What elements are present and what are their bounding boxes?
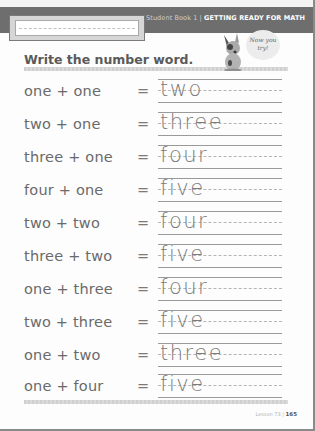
header-text: Student Book 1 | GETTING READY FOR MATH <box>146 14 305 22</box>
bubble-line-2: try! <box>257 44 268 51</box>
exercise-row: one + one = two <box>0 77 313 110</box>
equals-sign: = <box>137 182 149 198</box>
answer-text: five <box>160 241 205 267</box>
exercise-row: three + one = four <box>0 143 313 176</box>
name-box[interactable] <box>9 15 145 41</box>
answer-field[interactable]: four <box>158 277 282 303</box>
answer-field[interactable]: five <box>158 244 282 270</box>
exercise-row: four + one = five <box>0 176 313 209</box>
footer: Lesson 73 | 165 <box>255 411 297 417</box>
answer-field[interactable]: three <box>158 112 282 138</box>
exercise-row: one + two = three <box>0 341 313 374</box>
expression: two + two <box>24 215 100 231</box>
exercise-row: one + three = four <box>0 275 313 308</box>
equals-sign: = <box>137 149 149 165</box>
exercise-row: two + three = five <box>0 308 313 341</box>
answer-field[interactable]: five <box>158 374 282 400</box>
equals-sign: = <box>137 378 149 394</box>
expression: one + three <box>24 281 113 297</box>
answer-field[interactable]: three <box>158 343 282 369</box>
expression: two + one <box>24 116 101 132</box>
expression: three + two <box>24 248 112 264</box>
expression: one + two <box>24 347 101 363</box>
answer-text: four <box>160 208 208 234</box>
answer-text: five <box>160 175 205 201</box>
exercise-row: two + one = three <box>0 110 313 143</box>
equals-sign: = <box>137 347 149 363</box>
answer-field[interactable]: two <box>158 79 282 105</box>
page-title: Write the number word. <box>24 52 193 67</box>
exercise-row: three + two = five <box>0 242 313 275</box>
bottom-divider <box>24 400 288 404</box>
answer-field[interactable]: four <box>158 211 282 237</box>
answer-text: three <box>160 340 223 366</box>
section-title: GETTING READY FOR MATH <box>204 14 305 22</box>
equals-sign: = <box>137 281 149 297</box>
equals-sign: = <box>137 215 149 231</box>
bubble-line-1: Now you <box>250 36 277 43</box>
expression: two + three <box>24 314 112 330</box>
expression: one + one <box>24 83 101 99</box>
answer-text: three <box>160 109 223 135</box>
lesson-label: Lesson 73 | <box>255 411 283 417</box>
exercise-row: two + two = four <box>0 209 313 242</box>
answer-text: five <box>160 307 205 333</box>
expression: one + four <box>24 378 103 394</box>
answer-field[interactable]: five <box>158 178 282 204</box>
expression: four + one <box>24 182 103 198</box>
equals-sign: = <box>137 83 149 99</box>
top-strip <box>0 0 313 7</box>
page-number: 165 <box>286 411 297 417</box>
book-label: Student Book 1 | <box>146 14 202 22</box>
worksheet-page: Student Book 1 | GETTING READY FOR MATH … <box>0 0 315 431</box>
speech-bubble: Now you try! <box>246 30 280 60</box>
equals-sign: = <box>137 116 149 132</box>
equals-sign: = <box>137 314 149 330</box>
answer-text: five <box>160 371 205 397</box>
title-divider <box>24 67 288 71</box>
expression: three + one <box>24 149 113 165</box>
answer-text: four <box>160 142 208 168</box>
name-field[interactable] <box>15 20 139 36</box>
dog-mascot-icon <box>221 33 245 71</box>
answer-text: four <box>160 274 208 300</box>
answer-text: two <box>160 76 203 102</box>
answer-field[interactable]: five <box>158 310 282 336</box>
equals-sign: = <box>137 248 149 264</box>
answer-field[interactable]: four <box>158 145 282 171</box>
